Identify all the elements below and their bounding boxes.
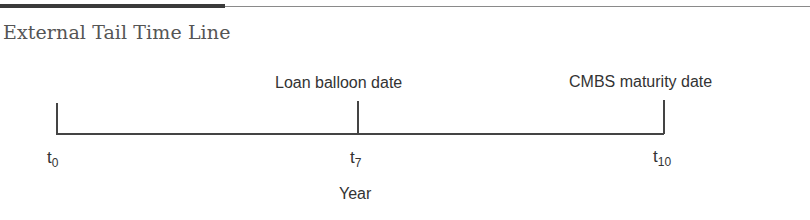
tick-label-t10: t10 — [653, 147, 671, 169]
tick-label-t7: t7 — [350, 148, 361, 170]
tick-t10 — [663, 100, 665, 134]
figure-title: External Tail Time Line — [3, 21, 230, 43]
tick-t0 — [56, 103, 58, 134]
header-rule-thin — [225, 6, 810, 7]
header-rule-thick — [0, 4, 225, 8]
tick-t7 — [357, 101, 359, 134]
timeline-axis — [56, 133, 664, 135]
event-label-loan-balloon: Loan balloon date — [275, 74, 402, 92]
tick-label-t0: t0 — [47, 148, 58, 170]
axis-label-year: Year — [339, 185, 371, 203]
event-label-cmbs-maturity: CMBS maturity date — [569, 73, 712, 91]
